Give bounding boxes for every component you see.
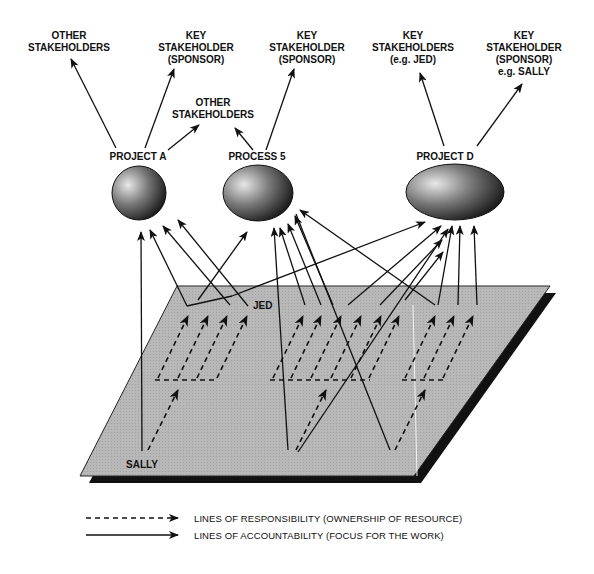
svg-text:STAKEHOLDERS: STAKEHOLDERS [28, 42, 110, 53]
svg-text:STAKEHOLDER: STAKEHOLDER [486, 42, 562, 53]
svg-text:OTHER: OTHER [52, 30, 88, 41]
legend-accountability: LINES OF ACCOUNTABILITY (FOCUS FOR THE W… [86, 530, 444, 541]
node-label-process-5: PROCESS 5 [228, 151, 286, 162]
svg-text:STAKEHOLDERS: STAKEHOLDERS [372, 42, 454, 53]
svg-text:STAKEHOLDERS: STAKEHOLDERS [172, 109, 254, 120]
svg-text:(SPONSOR): (SPONSOR) [168, 54, 225, 65]
svg-text:STAKEHOLDER: STAKEHOLDER [158, 42, 234, 53]
stakeholder-arrows [71, 59, 522, 150]
svg-text:(e.g. JED): (e.g. JED) [390, 54, 436, 65]
legend-responsibility: LINES OF RESPONSIBILITY (OWNERSHIP OF RE… [86, 513, 462, 524]
svg-text:(SPONSOR): (SPONSOR) [279, 54, 336, 65]
svg-text:KEY: KEY [403, 30, 424, 41]
legend: LINES OF RESPONSIBILITY (OWNERSHIP OF RE… [86, 513, 462, 541]
label-process-5-key-stakeholder: KEY STAKEHOLDER (SPONSOR) [269, 30, 345, 65]
svg-text:OTHER: OTHER [196, 97, 232, 108]
node-project-d[interactable] [406, 164, 504, 220]
node-label-project-d: PROJECT D [416, 151, 473, 162]
responsibility-accountability-diagram: OTHER STAKEHOLDERS KEY STAKEHOLDER (SPON… [0, 0, 594, 574]
svg-text:KEY: KEY [514, 30, 535, 41]
svg-text:KEY: KEY [297, 30, 318, 41]
label-shared-other-stakeholders: OTHER STAKEHOLDERS [172, 97, 254, 120]
node-label-project-a: PROJECT A [110, 151, 167, 162]
svg-text:STAKEHOLDER: STAKEHOLDER [269, 42, 345, 53]
svg-text:KEY: KEY [186, 30, 207, 41]
label-project-a-other-stakeholders: OTHER STAKEHOLDERS [28, 30, 110, 53]
organization-plane [80, 286, 550, 476]
svg-text:LINES OF RESPONSIBILITY (OWNE: LINES OF RESPONSIBILITY (OWNERSHIP OF RE… [194, 513, 462, 524]
person-label-sally: SALLY [126, 459, 158, 470]
label-project-a-key-stakeholder: KEY STAKEHOLDER (SPONSOR) [158, 30, 234, 65]
svg-text:LINES OF ACCOUNTABILITY (FOCU: LINES OF ACCOUNTABILITY (FOCUS FOR THE W… [194, 530, 444, 541]
label-project-d-key-stakeholders-jed: KEY STAKEHOLDERS (e.g. JED) [372, 30, 454, 65]
node-process-5[interactable] [223, 165, 293, 221]
person-label-jed: JED [253, 300, 272, 311]
label-project-d-key-stakeholder-sally: KEY STAKEHOLDER (SPONSOR) e.g. SALLY [486, 30, 562, 77]
svg-text:e.g. SALLY: e.g. SALLY [498, 66, 550, 77]
node-project-a[interactable] [112, 166, 166, 220]
svg-text:(SPONSOR): (SPONSOR) [496, 54, 553, 65]
